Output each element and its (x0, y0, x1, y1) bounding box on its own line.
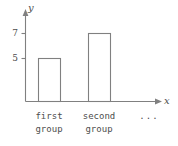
y-tick-label-5: 5 (6, 54, 18, 63)
category-label-line-1: second (71, 110, 127, 123)
category-label-second-group: second group (71, 110, 127, 136)
y-tick-label-7: 7 (6, 29, 18, 38)
x-axis-arrow-icon (155, 99, 162, 105)
bar-first-group (39, 59, 61, 102)
category-label-line-2: group (71, 123, 127, 136)
y-axis-label: y (28, 3, 34, 13)
bar-second-group (89, 34, 111, 102)
bar-chart-figure: 7 5 y x first group second group ... (0, 0, 178, 146)
category-label-first-group: first group (21, 110, 77, 136)
x-axis-label: x (164, 96, 170, 106)
category-label-line-1: first (21, 110, 77, 123)
ellipsis-label: ... (136, 110, 162, 123)
category-label-line-2: group (21, 123, 77, 136)
